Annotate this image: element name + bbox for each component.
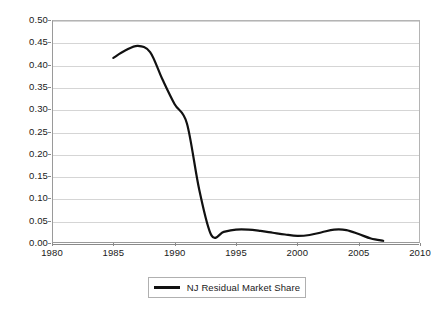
x-axis-tick-labels: 1980198519901995200020052010 xyxy=(52,248,420,264)
x-axis-tick xyxy=(52,243,53,246)
x-axis-tick-label: 1995 xyxy=(225,248,247,258)
x-axis-tick-label: 1985 xyxy=(103,248,125,258)
y-axis-tick xyxy=(48,42,51,43)
y-axis-ticks xyxy=(0,20,52,243)
x-axis-tick xyxy=(236,243,237,246)
series-line-nj-residual-market-share xyxy=(113,46,383,241)
x-axis-tick-label: 2000 xyxy=(287,248,309,258)
line-swatch-icon xyxy=(154,286,180,288)
y-axis-tick xyxy=(48,221,51,222)
legend-item-label: NJ Residual Market Share xyxy=(187,283,300,293)
legend: NJ Residual Market Share xyxy=(148,277,306,298)
y-axis-tick xyxy=(48,65,51,66)
x-axis-tick xyxy=(359,243,360,246)
y-axis-tick xyxy=(48,132,51,133)
x-axis-tick-label: 1980 xyxy=(41,248,63,258)
y-axis-tick xyxy=(48,20,51,21)
x-axis-tick xyxy=(113,243,114,246)
x-axis-tick xyxy=(297,243,298,246)
series-layer xyxy=(52,20,420,243)
x-axis-tick xyxy=(175,243,176,246)
x-axis-tick-label: 2005 xyxy=(348,248,370,258)
y-axis-tick xyxy=(48,243,51,244)
y-axis-tick xyxy=(48,87,51,88)
y-axis-tick xyxy=(48,154,51,155)
x-axis-tick xyxy=(420,243,421,246)
y-axis-tick xyxy=(48,109,51,110)
x-axis-tick-label: 1990 xyxy=(164,248,186,258)
y-axis-tick xyxy=(48,198,51,199)
y-axis-tick xyxy=(48,176,51,177)
x-axis-tick-label: 2010 xyxy=(409,248,431,258)
line-chart: 0.000.050.100.150.200.250.300.350.400.45… xyxy=(0,0,445,314)
